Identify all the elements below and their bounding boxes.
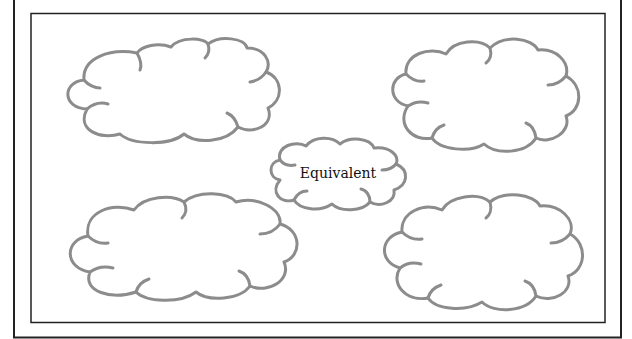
- cloud-bottom-right: [384, 195, 582, 310]
- cloud-top-left: [68, 39, 280, 143]
- cloud-bottom-left: [70, 194, 297, 301]
- cloud-top-right: [393, 39, 579, 151]
- center-label: Equivalent: [300, 165, 377, 181]
- diagram-canvas: Equivalent: [0, 0, 632, 339]
